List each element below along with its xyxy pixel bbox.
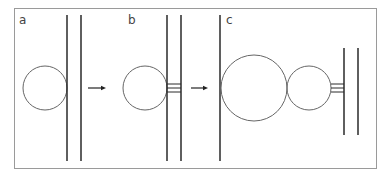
panel-a-label: a: [19, 13, 26, 27]
fusion-diagram: a b c: [0, 0, 387, 175]
panel-b-label: b: [128, 13, 136, 27]
panel-c-label: c: [226, 13, 233, 27]
